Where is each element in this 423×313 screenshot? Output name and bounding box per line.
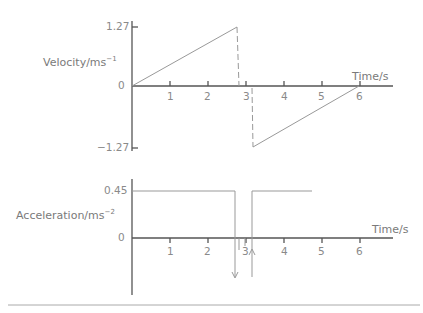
acceleration-line-1 [132, 191, 235, 277]
vx-tick-2: 2 [204, 90, 211, 102]
velocity-reverse-dashed [252, 88, 253, 147]
acceleration-ylabel: Acceleration/ms−2 [16, 208, 115, 222]
velocity-ytick-top: 1.27 [106, 20, 129, 32]
vx-tick-1: 1 [167, 90, 174, 102]
velocity-recover-line [253, 86, 359, 147]
ax-tick-3: 3 [242, 245, 249, 257]
velocity-ytick-zero: 0 [118, 79, 125, 91]
ax-tick-2: 2 [204, 245, 211, 257]
accel-ytick-zero: 0 [118, 231, 125, 243]
velocity-ylabel: Velocity/ms−1 [43, 55, 117, 69]
ax-tick-6: 6 [356, 245, 363, 257]
accel-ytick-top: 0.45 [104, 184, 127, 196]
ax-tick-1: 1 [167, 245, 174, 257]
acceleration-xlabel: Time/s [372, 223, 408, 236]
velocity-rise-line [132, 27, 237, 86]
vx-tick-5: 5 [318, 90, 325, 102]
acceleration-line-2 [252, 191, 312, 277]
ax-tick-5: 5 [318, 245, 325, 257]
velocity-ytick-bottom: −1.27 [97, 141, 129, 153]
vx-tick-3: 3 [243, 90, 250, 102]
vx-tick-4: 4 [281, 90, 288, 102]
chart-canvas [0, 0, 423, 313]
velocity-drop-dashed [237, 27, 239, 86]
ax-tick-4: 4 [281, 245, 288, 257]
vx-tick-6: 6 [356, 90, 363, 102]
velocity-xlabel: Time/s [352, 70, 388, 83]
